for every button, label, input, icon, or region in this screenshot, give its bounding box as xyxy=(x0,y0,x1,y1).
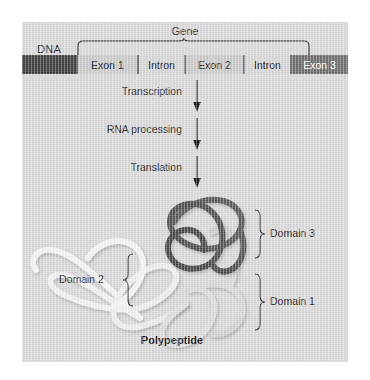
domain-1-brace-icon xyxy=(255,274,265,330)
polypeptide-caption: Polypeptide xyxy=(102,334,242,346)
domain-3-label: Domain 3 xyxy=(270,227,315,239)
domain-2-ribbon xyxy=(33,241,186,328)
domain-1-label: Domain 1 xyxy=(270,295,315,307)
domain-2-label: Domain 2 xyxy=(59,273,104,285)
domain-3-brace-icon xyxy=(255,210,265,258)
polypeptide-structure xyxy=(22,22,348,362)
figure-panel: DNA Gene Exon 1 Intron Exon 2 Intron Exo… xyxy=(22,22,348,362)
